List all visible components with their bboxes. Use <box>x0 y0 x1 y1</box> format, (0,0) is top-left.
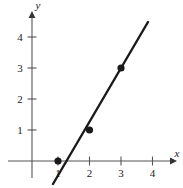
x-tick-label-2: 2 <box>87 167 93 179</box>
plot-canvas: 1 2 3 4 1 2 3 4 x y <box>0 0 183 188</box>
y-tick-label-2: 2 <box>17 93 23 105</box>
data-point-1-0 <box>54 157 61 164</box>
y-tick-label-3: 3 <box>17 62 23 74</box>
y-axis-arrowhead <box>29 11 36 18</box>
x-tick-label-4: 4 <box>150 167 156 179</box>
x-tick-label-3: 3 <box>118 167 124 179</box>
scatter-plot-figure: 1 2 3 4 1 2 3 4 x y <box>0 0 183 188</box>
data-point-3-3 <box>117 64 124 71</box>
x-axis-tick-labels: 1 2 3 4 <box>55 167 156 179</box>
y-tick-label-1: 1 <box>17 124 23 136</box>
x-axis-label: x <box>174 147 180 159</box>
y-axis-tick-labels: 1 2 3 4 <box>17 31 23 136</box>
x-axis <box>8 158 177 165</box>
y-axis-label: y <box>35 0 41 11</box>
y-axis <box>29 11 36 178</box>
data-point-2-1 <box>86 126 93 133</box>
y-tick-label-4: 4 <box>17 31 23 43</box>
fitted-line <box>53 22 148 184</box>
